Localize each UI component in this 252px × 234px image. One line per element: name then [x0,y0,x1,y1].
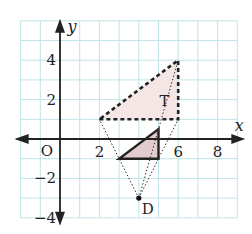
y-tick-label: 2 [46,91,56,109]
y-axis-label: y [66,17,77,36]
x-tick-label: 8 [213,143,223,161]
x-tick-label: 2 [95,143,105,161]
x-axis-arrow-left-icon [15,134,29,144]
center-point-D [136,196,141,201]
origin-label: O [41,142,53,160]
triangle-T-label: T [159,92,169,110]
y-tick-label: −4 [34,209,56,227]
y-tick-label: −2 [34,169,56,187]
center-label-D: D [142,200,154,218]
x-axis-label: x [235,116,244,135]
axes [15,19,246,226]
y-axis-arrow-down-icon [55,212,65,226]
x-tick-label: 6 [173,143,183,161]
coordinate-diagram: xyO26842−2−4TD [0,0,252,234]
x-axis-arrow-right-icon [231,134,245,144]
y-tick-label: 4 [46,51,56,69]
